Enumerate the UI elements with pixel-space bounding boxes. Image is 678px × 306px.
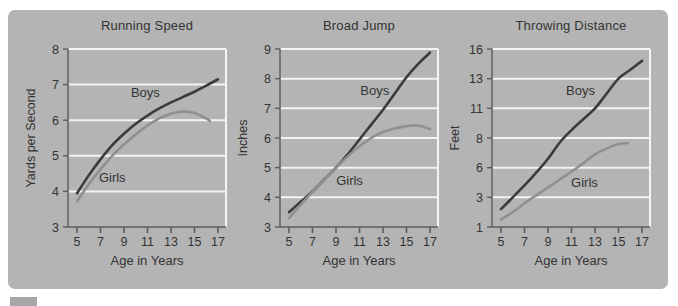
chart-running-speed: Running Speed Yards per Second 345678579… bbox=[22, 12, 234, 289]
x-tick-label: 7 bbox=[97, 235, 104, 249]
x-tick-label: 9 bbox=[121, 235, 128, 249]
x-tick-label: 15 bbox=[400, 235, 414, 249]
x-tick-label: 5 bbox=[286, 235, 293, 249]
boys-series-label: Boys bbox=[566, 83, 595, 98]
y-tick-label: 1 bbox=[476, 221, 483, 235]
y-tick-label: 6 bbox=[264, 132, 271, 146]
chart-title: Running Speed bbox=[68, 18, 226, 33]
y-tick-label: 8 bbox=[476, 132, 483, 146]
x-tick-label: 9 bbox=[333, 235, 340, 249]
running-speed-plot: 34567857911131517BoysGirls bbox=[22, 35, 234, 253]
y-tick-label: 3 bbox=[476, 191, 483, 205]
y-tick-label: 4 bbox=[264, 191, 271, 205]
chart-broad-jump: Broad Jump Inches 345678957911131517Boys… bbox=[234, 12, 446, 289]
chart-title: Broad Jump bbox=[280, 18, 438, 33]
y-axis-label: Yards per Second bbox=[24, 88, 38, 187]
y-tick-label: 6 bbox=[52, 114, 59, 128]
y-tick-label: 13 bbox=[469, 72, 483, 86]
x-tick-label: 17 bbox=[211, 235, 225, 249]
y-tick-label: 7 bbox=[52, 78, 59, 92]
y-tick-label: 4 bbox=[52, 185, 59, 199]
y-tick-label: 6 bbox=[476, 161, 483, 175]
boys-series-label: Boys bbox=[360, 83, 389, 98]
x-tick-label: 9 bbox=[545, 235, 552, 249]
x-tick-label: 17 bbox=[635, 235, 649, 249]
x-tick-label: 13 bbox=[376, 235, 390, 249]
x-tick-label: 11 bbox=[353, 235, 366, 249]
x-axis-label: Age in Years bbox=[492, 253, 650, 268]
girls-series-label: Girls bbox=[99, 170, 126, 185]
y-axis-label: Inches bbox=[236, 120, 250, 157]
x-tick-label: 5 bbox=[74, 235, 81, 249]
y-tick-label: 11 bbox=[470, 102, 483, 116]
broad-jump-plot: 345678957911131517BoysGirls bbox=[234, 35, 446, 253]
boys-curve bbox=[289, 53, 430, 213]
x-tick-label: 15 bbox=[612, 235, 626, 249]
x-tick-label: 15 bbox=[188, 235, 202, 249]
y-tick-label: 5 bbox=[264, 161, 271, 175]
x-tick-label: 11 bbox=[141, 235, 154, 249]
x-tick-label: 7 bbox=[521, 235, 528, 249]
y-tick-label: 8 bbox=[264, 72, 271, 86]
x-axis-label: Age in Years bbox=[68, 253, 226, 268]
chart-title: Throwing Distance bbox=[492, 18, 650, 33]
y-tick-label: 8 bbox=[52, 43, 59, 57]
girls-series-label: Girls bbox=[336, 173, 363, 188]
y-tick-label: 9 bbox=[264, 43, 271, 57]
y-tick-label: 7 bbox=[264, 102, 271, 116]
chart-throwing-distance: Throwing Distance Feet 13681113165791113… bbox=[446, 12, 658, 289]
x-tick-label: 13 bbox=[588, 235, 602, 249]
x-tick-label: 7 bbox=[309, 235, 316, 249]
x-axis-label: Age in Years bbox=[280, 253, 438, 268]
throwing-distance-plot: 136811131657911131517BoysGirls bbox=[446, 35, 658, 253]
boys-series-label: Boys bbox=[131, 85, 160, 100]
girls-curve bbox=[501, 143, 628, 219]
y-tick-label: 16 bbox=[469, 43, 483, 57]
x-tick-label: 17 bbox=[423, 235, 437, 249]
girls-series-label: Girls bbox=[571, 175, 598, 190]
x-tick-label: 13 bbox=[164, 235, 178, 249]
x-tick-label: 11 bbox=[565, 235, 578, 249]
x-tick-label: 5 bbox=[498, 235, 505, 249]
y-tick-label: 5 bbox=[52, 149, 59, 163]
caption-marker-chip bbox=[10, 297, 37, 306]
y-axis-label: Feet bbox=[448, 125, 462, 150]
y-tick-label: 3 bbox=[264, 221, 271, 235]
y-tick-label: 3 bbox=[52, 221, 59, 235]
figure-panel: Running Speed Yards per Second 345678579… bbox=[8, 10, 668, 289]
